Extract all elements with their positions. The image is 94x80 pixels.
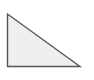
diagram-canvas [0, 0, 94, 80]
right-triangle-shape [8, 14, 81, 67]
